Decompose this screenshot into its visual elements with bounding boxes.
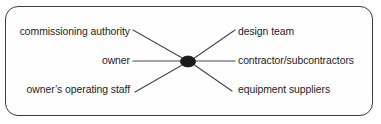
label-design-team: design team [238,26,294,38]
spoke-design-team [193,30,235,59]
label-owners-operating-staff: owner’s operating staff [27,84,130,96]
label-owner: owner [102,55,130,67]
spoke-commissioning-authority [133,30,184,59]
label-equipment-suppliers: equipment suppliers [238,84,330,96]
label-contractor-subcontractors: contractor/subcontractors [238,55,354,67]
label-commissioning-authority: commissioning authority [20,26,130,38]
diagram-figure: commissioning authority owner owner’s op… [0,0,381,124]
spoke-owners-operating-staff [135,64,184,92]
spoke-equipment-suppliers [193,64,232,91]
project-hub-node [181,56,196,67]
